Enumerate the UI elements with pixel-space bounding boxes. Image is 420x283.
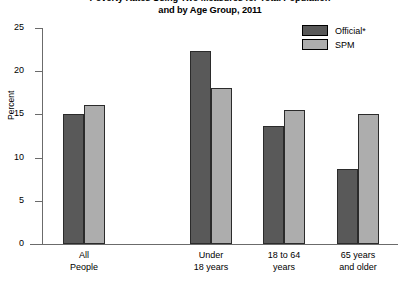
y-tick-15: 15 [35,114,42,115]
y-tick-label-10: 10 [14,152,24,162]
y-tick-label-5: 5 [19,195,24,205]
x-category-label-all-people: All People [36,250,132,273]
bar-spm-18-to-64 [284,110,305,244]
x-category-label-65-plus: 65 years and older [310,250,406,273]
y-tick-label-25: 25 [14,22,24,32]
y-tick-label-0: 0 [19,238,24,248]
chart-title: Poverty Rates Using Two Measures for Tot… [30,0,390,16]
bar-spm-all-people [84,105,105,244]
y-tick-10: 10 [35,158,42,159]
bar-spm-under-18 [211,88,232,244]
y-axis-line [42,28,43,244]
poverty-rates-bar-chart: Poverty Rates Using Two Measures for Tot… [0,0,420,283]
x-category-label-65-plus-line-1: 65 years [310,250,406,262]
plot-area: Percent 0 5 10 15 20 25 [42,28,386,244]
y-tick-5: 5 [35,201,42,202]
x-axis-line [30,244,398,245]
y-tick-label-15: 15 [14,108,24,118]
bar-official-18-to-64 [263,126,284,244]
bar-official-under-18 [190,51,211,244]
x-category-label-all-people-line-2: People [36,262,132,274]
y-tick-label-20: 20 [14,65,24,75]
bar-spm-65-plus [358,114,379,244]
x-category-label-65-plus-line-2: and older [310,262,406,274]
bar-official-all-people [63,114,84,244]
bar-official-65-plus [337,169,358,244]
x-category-label-all-people-line-1: All [36,250,132,262]
y-tick-0: 0 [35,244,42,245]
chart-title-line-2: and by Age Group, 2011 [30,5,390,17]
y-tick-20: 20 [35,71,42,72]
y-tick-25: 25 [35,28,42,29]
